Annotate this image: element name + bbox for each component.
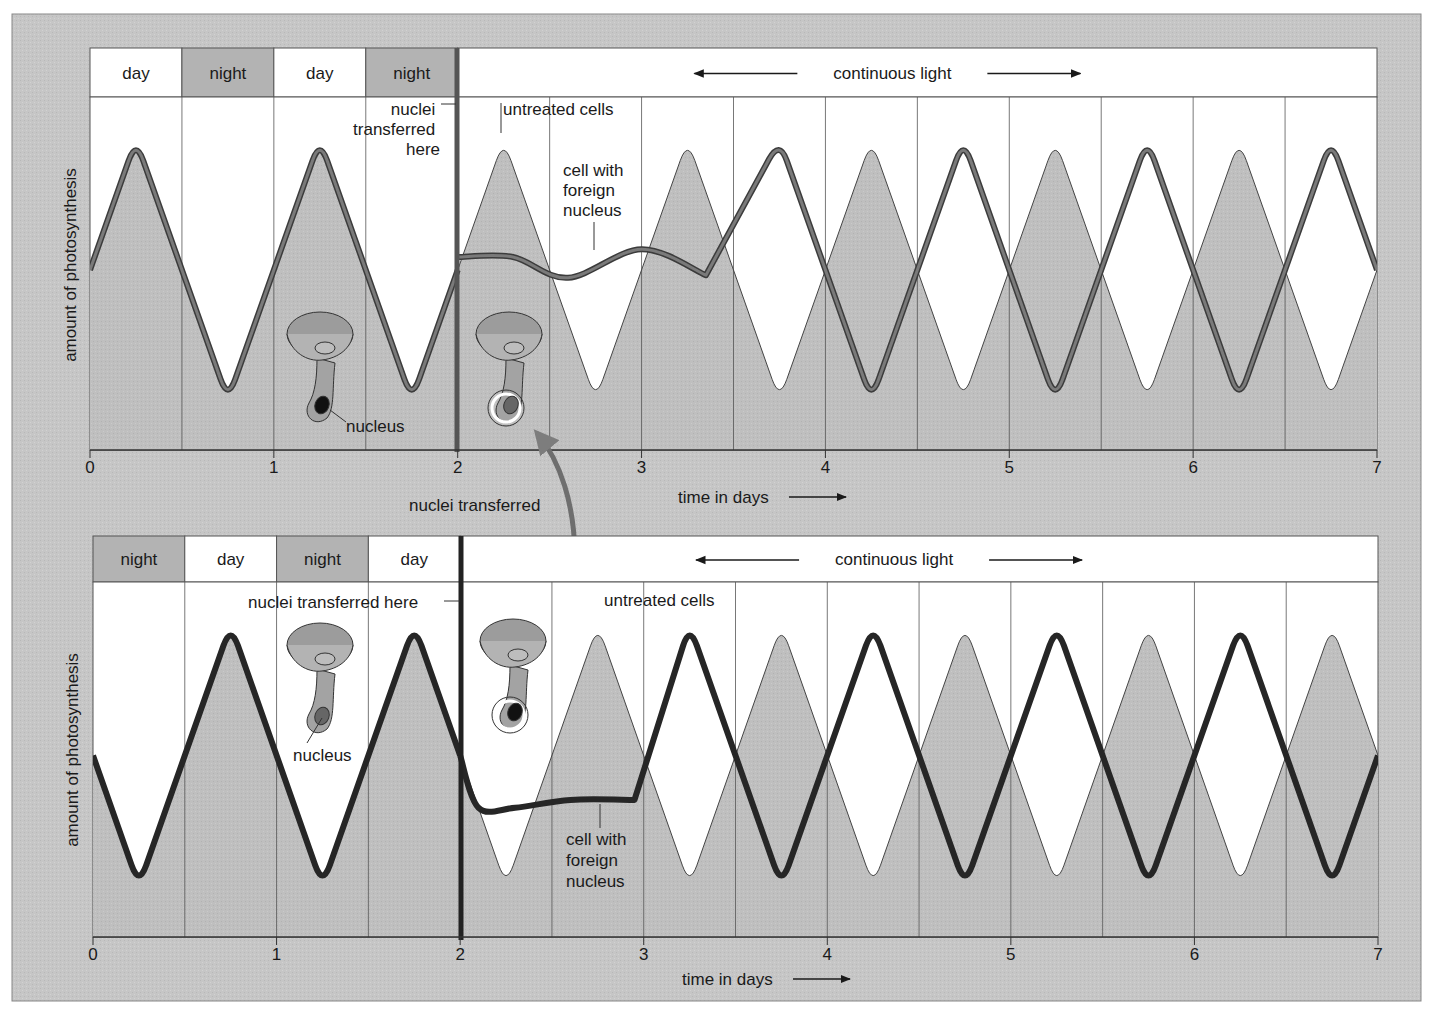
tick-label: 6: [1188, 458, 1197, 477]
tick-label: 2: [455, 945, 464, 964]
bottom-nucleus-label: nucleus: [293, 746, 352, 765]
tick-label: 0: [88, 945, 97, 964]
continuous-light-label: continuous light: [835, 550, 953, 569]
tick-label: 1: [269, 458, 278, 477]
bottom-y-axis-label: amount of photosynthesis: [63, 653, 82, 847]
continuous-light-label: continuous light: [833, 64, 951, 83]
tick-label: 6: [1190, 945, 1199, 964]
middle-transfer-label: nuclei transferred: [409, 496, 540, 515]
header-label-night: night: [304, 550, 341, 569]
tick-label: 2: [453, 458, 462, 477]
tick-label: 5: [1005, 458, 1014, 477]
bottom-untreated-annotation: untreated cells: [604, 591, 715, 610]
top-y-axis-label: amount of photosynthesis: [61, 168, 80, 362]
tick-label: 7: [1373, 945, 1382, 964]
top-panel: daynightdaynightcontinuous light 0123456…: [61, 48, 1382, 507]
tick-label: 1: [272, 945, 281, 964]
tick-label: 0: [85, 458, 94, 477]
top-header: daynightdaynightcontinuous light: [90, 48, 1377, 97]
bottom-foreign-annotation: cell with foreign nucleus: [566, 830, 631, 891]
bottom-header: nightdaynightdaycontinuous light: [93, 536, 1378, 582]
tick-label: 4: [821, 458, 830, 477]
tick-label: 4: [823, 945, 832, 964]
header-label-night: night: [393, 64, 430, 83]
tick-label: 3: [637, 458, 646, 477]
tick-label: 3: [639, 945, 648, 964]
header-label-day: day: [306, 64, 334, 83]
bottom-x-axis-label: time in days: [682, 970, 773, 989]
top-foreign-annotation: cell with foreign nucleus: [563, 161, 628, 220]
tick-label: 7: [1372, 458, 1381, 477]
header-label-night: night: [209, 64, 246, 83]
top-x-axis-label: time in days: [678, 488, 769, 507]
header-label-night: night: [120, 550, 157, 569]
header-label-day: day: [401, 550, 429, 569]
figure-canvas: daynightdaynightcontinuous light 0123456…: [0, 0, 1430, 1015]
bottom-transfer-annotation: nuclei transferred here: [248, 593, 418, 612]
header-label-day: day: [217, 550, 245, 569]
tick-label: 5: [1006, 945, 1015, 964]
header-label-day: day: [122, 64, 150, 83]
bottom-panel: nightdaynightdaycontinuous light 0123456…: [63, 536, 1383, 989]
top-nucleus-label: nucleus: [346, 417, 405, 436]
top-untreated-annotation: untreated cells: [503, 100, 614, 119]
